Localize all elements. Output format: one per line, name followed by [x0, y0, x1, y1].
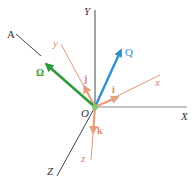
label-i: i: [112, 85, 115, 95]
label-j: j: [84, 74, 87, 84]
label-k: k: [97, 126, 103, 136]
label-z: z: [81, 153, 85, 164]
label-omega: Ω: [36, 68, 44, 78]
Z-axis: [57, 107, 95, 176]
label-Q: Q: [125, 47, 133, 58]
omega-vector: [46, 64, 95, 107]
label-A: A: [7, 29, 15, 40]
label-origin: O: [81, 108, 89, 119]
A-axis: [16, 34, 41, 56]
label-Y: Y: [84, 6, 90, 17]
origin-dot: [92, 104, 98, 110]
label-x: x: [155, 77, 160, 88]
label-Z: Z: [47, 166, 53, 177]
label-y: y: [53, 38, 58, 49]
label-X: X: [181, 111, 188, 122]
diagram-canvas: [0, 0, 196, 183]
